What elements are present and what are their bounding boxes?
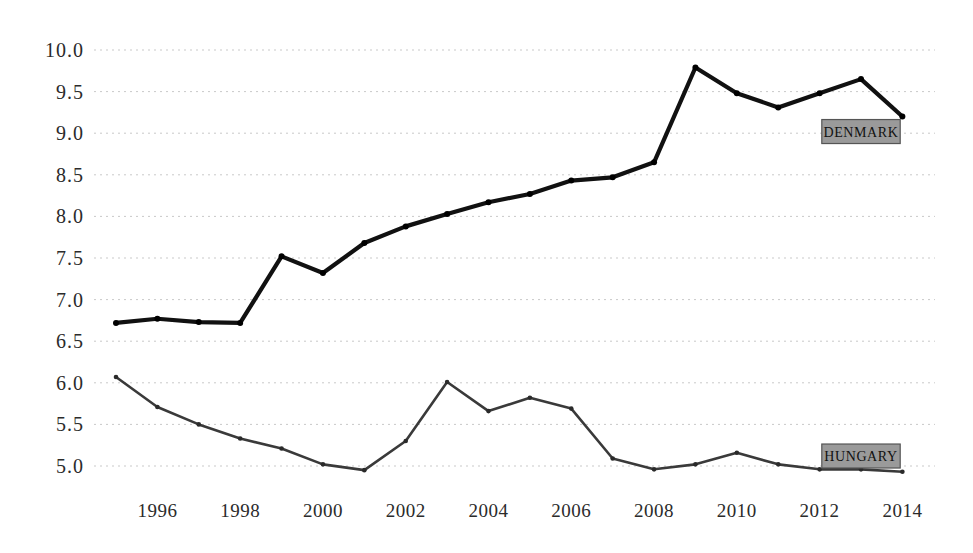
y-axis-tick-9.0: 9.0 — [56, 122, 84, 144]
data-point-hungary-2009 — [693, 462, 698, 467]
data-point-denmark-2008 — [651, 159, 657, 165]
series-label-text-denmark: DENMARK — [824, 125, 899, 140]
y-axis-tick-6.5: 6.5 — [56, 330, 84, 352]
y-axis-tick-10.0: 10.0 — [45, 39, 84, 61]
x-axis-tick-2000: 2000 — [303, 500, 343, 521]
data-point-denmark-2013 — [858, 76, 864, 82]
data-point-denmark-1999 — [279, 253, 285, 259]
y-axis-tick-7.0: 7.0 — [56, 289, 84, 311]
data-point-denmark-1996 — [154, 316, 160, 322]
series-label-denmark: DENMARK — [822, 120, 900, 144]
data-point-hungary-2000 — [321, 462, 326, 467]
data-point-denmark-1998 — [237, 320, 243, 326]
data-point-denmark-2000 — [320, 270, 326, 276]
data-point-denmark-2006 — [568, 178, 574, 184]
y-axis-tick-7.5: 7.5 — [56, 247, 84, 269]
x-axis-tick-2014: 2014 — [882, 500, 922, 521]
data-point-hungary-2003 — [445, 380, 450, 385]
data-point-denmark-2014 — [899, 114, 905, 120]
data-point-denmark-2012 — [817, 90, 823, 96]
data-point-hungary-2006 — [569, 406, 574, 411]
data-point-hungary-2001 — [362, 468, 367, 473]
x-axis-tick-labels: 1996199820002002200420062008201020122014 — [137, 500, 922, 521]
series-line-denmark — [116, 67, 902, 322]
data-point-hungary-1998 — [238, 436, 243, 441]
data-point-denmark-2007 — [610, 174, 616, 180]
x-axis-tick-1996: 1996 — [137, 500, 177, 521]
y-axis-tick-5.5: 5.5 — [56, 413, 84, 435]
data-point-hungary-2008 — [652, 467, 657, 472]
data-point-hungary-2002 — [403, 439, 408, 444]
y-axis-tick-labels: 10.09.59.08.58.07.57.06.56.05.55.0 — [45, 39, 84, 477]
x-axis-tick-2010: 2010 — [717, 500, 757, 521]
data-point-denmark-1995 — [113, 320, 119, 326]
series-label-hungary: HUNGARY — [822, 444, 900, 468]
y-axis-tick-9.5: 9.5 — [56, 81, 84, 103]
data-point-hungary-1997 — [196, 422, 201, 427]
x-axis-tick-2002: 2002 — [386, 500, 426, 521]
x-axis-tick-2004: 2004 — [469, 500, 509, 521]
data-point-denmark-2002 — [403, 223, 409, 229]
chart-canvas: 10.09.59.08.58.07.57.06.56.05.55.0 19961… — [0, 0, 973, 553]
x-axis-tick-2012: 2012 — [800, 500, 840, 521]
line-chart: 10.09.59.08.58.07.57.06.56.05.55.0 19961… — [0, 0, 973, 553]
series-labels-group: DENMARKHUNGARY — [822, 120, 900, 468]
data-point-hungary-2005 — [528, 395, 533, 400]
series-markers-group — [113, 64, 905, 474]
data-point-hungary-2010 — [735, 450, 740, 455]
data-point-hungary-2011 — [776, 462, 781, 467]
x-axis-tick-1998: 1998 — [220, 500, 260, 521]
x-axis-tick-2006: 2006 — [551, 500, 591, 521]
data-point-denmark-2011 — [775, 104, 781, 110]
data-point-denmark-1997 — [196, 319, 202, 325]
data-point-hungary-2004 — [486, 409, 491, 414]
data-point-hungary-1999 — [279, 446, 284, 451]
data-point-denmark-2001 — [361, 240, 367, 246]
data-point-hungary-2007 — [610, 456, 615, 461]
data-point-hungary-2014 — [900, 470, 905, 475]
data-point-denmark-2004 — [486, 199, 492, 205]
data-point-denmark-2005 — [527, 191, 533, 197]
x-axis-tick-2008: 2008 — [634, 500, 674, 521]
series-lines-group — [116, 67, 902, 471]
series-label-text-hungary: HUNGARY — [824, 449, 897, 464]
data-point-denmark-2009 — [692, 64, 698, 70]
data-point-denmark-2010 — [734, 90, 740, 96]
y-axis-tick-5.0: 5.0 — [56, 455, 84, 477]
data-point-denmark-2003 — [444, 211, 450, 217]
y-axis-tick-6.0: 6.0 — [56, 372, 84, 394]
y-axis-tick-8.5: 8.5 — [56, 164, 84, 186]
y-axis-tick-8.0: 8.0 — [56, 205, 84, 227]
data-point-hungary-1996 — [155, 405, 160, 410]
data-point-hungary-1995 — [114, 375, 119, 380]
